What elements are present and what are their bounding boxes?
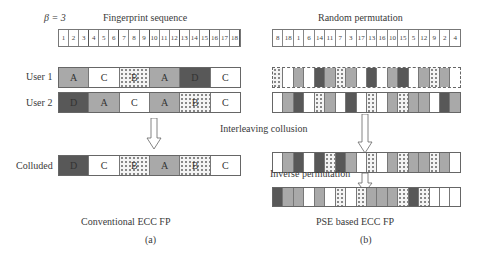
position-cell: 7 <box>119 30 129 46</box>
symbol-cell: A <box>59 68 89 87</box>
fingerprint-position-row: 123456789101112131415161718 <box>58 29 241 47</box>
down-arrow-icon <box>357 114 373 154</box>
position-cell: 10 <box>150 30 160 46</box>
interleaving-label: Interleaving collusion <box>220 123 307 134</box>
symbol-cell <box>304 188 314 206</box>
symbol-cell: A <box>89 93 119 112</box>
symbol-cell <box>440 93 450 112</box>
user2-label: User 2 <box>26 97 52 108</box>
symbol-cell: B <box>120 156 150 175</box>
position-cell: 12 <box>170 30 180 46</box>
position-cell: 8 <box>273 30 283 46</box>
symbol-cell <box>336 188 346 206</box>
position-cell: 4 <box>450 30 459 46</box>
symbol-cell <box>367 93 377 112</box>
symbol-cell: C <box>211 68 240 87</box>
position-cell: 17 <box>220 30 230 46</box>
symbol-cell <box>419 153 429 172</box>
symbol-cell: B <box>120 68 150 87</box>
symbol-cell: C <box>211 156 240 175</box>
symbol-cell: A <box>150 93 180 112</box>
symbol-cell <box>346 68 356 87</box>
symbol-cell <box>388 188 398 206</box>
position-cell: 18 <box>283 30 293 46</box>
position-cell: 4 <box>89 30 99 46</box>
symbol-cell <box>450 153 459 172</box>
symbol-cell <box>294 188 304 206</box>
symbol-cell <box>273 68 283 87</box>
symbol-cell <box>304 68 314 87</box>
permuted-user1-strip <box>272 67 461 88</box>
symbol-cell <box>440 153 450 172</box>
symbol-cell: A <box>150 156 180 175</box>
position-cell: 7 <box>336 30 346 46</box>
symbol-cell: C <box>211 93 240 112</box>
symbol-cell <box>377 68 387 87</box>
symbol-cell: B <box>180 93 210 112</box>
symbol-cell <box>409 188 419 206</box>
position-cell: 5 <box>409 30 419 46</box>
symbol-cell <box>357 68 367 87</box>
symbol-cell <box>304 93 314 112</box>
down-arrow-icon <box>146 118 162 150</box>
left-sublabel: (a) <box>145 234 156 245</box>
symbol-cell <box>450 93 459 112</box>
symbol-cell <box>367 153 377 172</box>
symbol-cell <box>440 188 450 206</box>
symbol-cell: D <box>180 68 210 87</box>
symbol-cell <box>450 68 459 87</box>
symbol-cell <box>430 68 440 87</box>
symbol-cell <box>315 93 325 112</box>
symbol-cell <box>283 93 293 112</box>
symbol-cell <box>377 93 387 112</box>
symbol-cell <box>419 188 429 206</box>
symbol-cell <box>398 68 408 87</box>
symbol-cell <box>388 153 398 172</box>
permutation-position-row: 818161411731713161015512924 <box>272 29 461 47</box>
symbol-cell <box>346 188 356 206</box>
inverse-permuted-strip <box>272 187 461 207</box>
right-title: Random permutation <box>318 12 403 23</box>
symbol-cell <box>283 188 293 206</box>
position-cell: 2 <box>440 30 450 46</box>
position-cell: 5 <box>99 30 109 46</box>
colluded-strip: DCBABC <box>58 155 241 176</box>
symbol-cell <box>336 68 346 87</box>
position-cell: 16 <box>210 30 220 46</box>
symbol-cell <box>409 153 419 172</box>
symbol-cell <box>336 93 346 112</box>
symbol-cell <box>398 153 408 172</box>
position-cell: 3 <box>79 30 89 46</box>
symbol-cell <box>294 93 304 112</box>
position-cell: 8 <box>129 30 139 46</box>
symbol-cell <box>388 93 398 112</box>
right-caption: PSE based ECC FP <box>316 216 394 227</box>
symbol-cell <box>388 68 398 87</box>
symbol-cell <box>346 93 356 112</box>
position-cell: 15 <box>200 30 210 46</box>
symbol-cell: A <box>150 68 180 87</box>
position-cell: 9 <box>430 30 440 46</box>
user1-fingerprint-strip: ACBADC <box>58 67 241 88</box>
position-cell: 9 <box>140 30 150 46</box>
symbol-cell <box>419 68 429 87</box>
position-cell: 13 <box>367 30 377 46</box>
symbol-cell <box>377 153 387 172</box>
symbol-cell <box>325 93 335 112</box>
symbol-cell <box>357 93 367 112</box>
symbol-cell <box>430 153 440 172</box>
symbol-cell <box>325 68 335 87</box>
position-cell: 2 <box>69 30 79 46</box>
left-caption: Conventional ECC FP <box>81 216 170 227</box>
position-cell: 1 <box>294 30 304 46</box>
symbol-cell <box>357 188 367 206</box>
symbol-cell <box>409 68 419 87</box>
position-cell: 3 <box>346 30 356 46</box>
symbol-cell <box>409 93 419 112</box>
position-cell: 14 <box>190 30 200 46</box>
position-cell: 15 <box>398 30 408 46</box>
symbol-cell <box>325 188 335 206</box>
position-cell: 6 <box>109 30 119 46</box>
position-cell: 6 <box>304 30 314 46</box>
symbol-cell <box>367 188 377 206</box>
